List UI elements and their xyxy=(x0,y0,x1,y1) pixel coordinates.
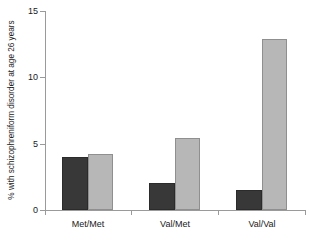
x-label-valmet: Val/Met xyxy=(132,219,218,230)
bar-valval-light xyxy=(262,39,287,210)
bar-valval-dark xyxy=(236,190,262,210)
bar-metmet-light xyxy=(88,154,113,210)
x-tick-start xyxy=(45,210,46,215)
x-tick-end xyxy=(305,210,306,215)
x-label-valval: Val/Val xyxy=(219,219,305,230)
y-tick-label-15: 15 xyxy=(0,7,38,16)
bar-chart: % with schizophreniform disorder at age … xyxy=(0,0,311,240)
bar-valmet-light xyxy=(175,138,200,210)
x-axis-line xyxy=(45,210,306,211)
x-tick-1 xyxy=(131,210,132,215)
bar-valmet-dark xyxy=(149,183,175,210)
y-tick-label-0: 0 xyxy=(0,206,38,215)
x-tick-2 xyxy=(218,210,219,215)
x-label-metmet: Met/Met xyxy=(45,219,131,230)
bar-metmet-dark xyxy=(62,157,88,210)
y-tick-label-10: 10 xyxy=(0,73,38,82)
plot-area xyxy=(45,11,305,210)
y-axis-title: % with schizophreniform disorder at age … xyxy=(5,5,19,215)
y-tick-label-5: 5 xyxy=(0,140,38,149)
